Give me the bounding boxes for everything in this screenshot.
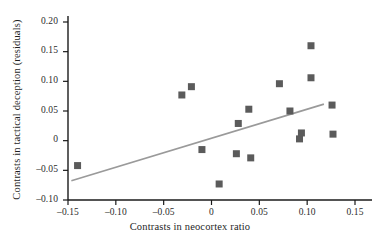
- x-tick-label: 0.15: [330, 207, 380, 217]
- data-point-marker: [307, 74, 314, 81]
- data-point-marker: [329, 131, 336, 138]
- data-point-marker: [245, 106, 252, 113]
- data-points: [74, 42, 336, 187]
- scatter-plot-figure: 0.200.150.100.050–0.05–0.10–0.15–0.10–0.…: [0, 0, 380, 243]
- data-point-marker: [233, 150, 240, 157]
- data-point-marker: [216, 180, 223, 187]
- data-point-marker: [276, 80, 283, 87]
- tick-marks: [63, 22, 355, 205]
- x-axis-title: Contrasts in neocortex ratio: [0, 221, 380, 232]
- data-point-marker: [307, 42, 314, 49]
- x-tick-label: –0.15: [43, 207, 93, 217]
- data-point-marker: [329, 102, 336, 109]
- x-tick-label: 0.05: [234, 207, 284, 217]
- regression-line: [71, 104, 324, 181]
- data-point-marker: [74, 162, 81, 169]
- x-tick-label: 0: [187, 207, 237, 217]
- y-axis-title: Contrasts in tactical deception (residua…: [11, 15, 22, 205]
- x-tick-label: –0.05: [139, 207, 189, 217]
- data-point-marker: [247, 154, 254, 161]
- axes-lines: [68, 16, 372, 200]
- x-tick-label: –0.10: [91, 207, 141, 217]
- trend-line: [71, 104, 324, 181]
- data-point-marker: [286, 108, 293, 115]
- data-point-marker: [178, 91, 185, 98]
- data-point-marker: [235, 120, 242, 127]
- x-tick-label: 0.10: [282, 207, 332, 217]
- data-point-marker: [298, 129, 305, 136]
- data-point-marker: [188, 83, 195, 90]
- data-point-marker: [198, 146, 205, 153]
